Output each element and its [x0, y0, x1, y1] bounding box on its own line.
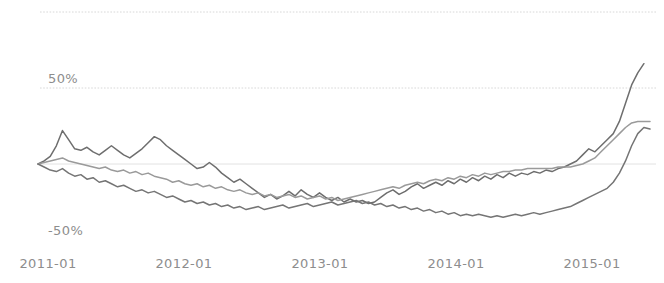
- series-line-series-1: [38, 64, 644, 204]
- x-tick-label: 2015-01: [563, 256, 620, 271]
- x-tick-label: 2013-01: [291, 256, 348, 271]
- chart-container: 50%-50% 2011-012012-012013-012014-012015…: [0, 0, 664, 283]
- y-tick-label: 50%: [48, 71, 78, 86]
- x-tick-label: 2011-01: [19, 256, 76, 271]
- y-tick-label: -50%: [48, 223, 83, 238]
- x-tick-label: 2012-01: [155, 256, 212, 271]
- x-tick-label: 2014-01: [427, 256, 484, 271]
- y-axis-tick-labels: 50%-50%: [48, 71, 83, 238]
- x-axis-tick-labels: 2011-012012-012013-012014-012015-01: [19, 256, 620, 271]
- gridlines: [40, 12, 656, 164]
- line-chart: 50%-50% 2011-012012-012013-012014-012015…: [0, 0, 664, 283]
- series-group: [38, 64, 650, 218]
